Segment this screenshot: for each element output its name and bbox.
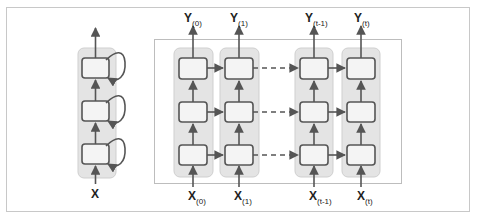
- cell: [347, 102, 375, 122]
- cell: [179, 58, 207, 79]
- rolled-cell-bot: [82, 144, 109, 164]
- input-label-t: X(t): [357, 190, 373, 206]
- cell: [300, 58, 328, 79]
- cell: [225, 102, 253, 122]
- rnn-diagram: [0, 0, 478, 217]
- input-label-0: X(0): [188, 190, 206, 206]
- rolled-input-label: X: [91, 188, 99, 200]
- cell: [347, 145, 375, 165]
- output-label-t: Y(t): [354, 12, 370, 28]
- rolled-cell-mid: [82, 101, 109, 121]
- cell: [225, 58, 253, 79]
- rolled-cell-top: [82, 58, 109, 78]
- input-label-1: X(1): [234, 190, 252, 206]
- output-label-t-1: Y(t-1): [305, 12, 328, 28]
- cell: [300, 145, 328, 165]
- output-label-0: Y(0): [184, 12, 202, 28]
- unrolled-network: [174, 26, 380, 187]
- rolled-network: [78, 28, 125, 184]
- cell: [225, 145, 253, 165]
- input-label-t-1: X(t-1): [309, 190, 332, 206]
- cell: [347, 58, 375, 79]
- output-label-1: Y(1): [230, 12, 248, 28]
- cell: [300, 102, 328, 122]
- cell: [179, 102, 207, 122]
- cell: [179, 145, 207, 165]
